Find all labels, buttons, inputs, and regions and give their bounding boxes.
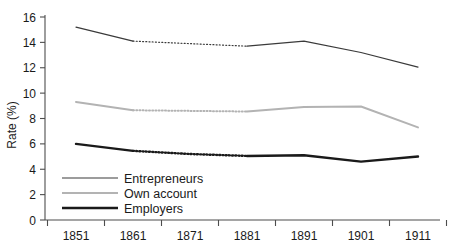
x-axis-tick-label: 1851 xyxy=(63,229,90,243)
y-axis-tick-label: 8 xyxy=(29,112,36,126)
series-line-own-account xyxy=(247,106,418,127)
y-axis-tick-label: 14 xyxy=(23,36,37,50)
x-axis-tick-label: 1881 xyxy=(234,229,261,243)
series-line-entrepreneurs xyxy=(247,41,418,67)
series-line-entrepreneurs xyxy=(76,27,133,41)
series-line-employers xyxy=(133,151,247,156)
y-axis-tick-label: 2 xyxy=(29,188,36,202)
y-axis-tick-label: 10 xyxy=(23,87,37,101)
y-axis-tick-label: 0 xyxy=(29,214,36,228)
legend-label-employers: Employers xyxy=(124,202,183,216)
line-chart: 0246810121416 18511861187118811891190119… xyxy=(0,0,462,249)
x-axis: 1851186118711881189119011911 xyxy=(45,220,447,243)
y-axis-tick-label: 16 xyxy=(23,11,37,25)
x-axis-tick-label: 1891 xyxy=(291,229,318,243)
x-axis-tick-label: 1861 xyxy=(120,229,147,243)
x-axis-tick-label: 1871 xyxy=(177,229,204,243)
y-axis-tick-label: 6 xyxy=(29,137,36,151)
legend-label-own-account: Own account xyxy=(124,187,197,201)
chart-canvas: 0246810121416 18511861187118811891190119… xyxy=(0,0,462,249)
x-axis-tick-label: 1911 xyxy=(405,229,431,243)
series-line-employers xyxy=(76,144,133,151)
legend-label-entrepreneurs: Entrepreneurs xyxy=(124,172,203,186)
chart-legend: EntrepreneursOwn accountEmployers xyxy=(62,172,203,216)
x-axis-tick-label: 1901 xyxy=(348,229,375,243)
series-line-entrepreneurs xyxy=(133,41,247,46)
series-line-own-account xyxy=(133,110,247,111)
y-axis-tick-label: 4 xyxy=(29,163,36,177)
series-line-own-account xyxy=(76,102,133,110)
y-axis-title: Rate (%) xyxy=(5,101,19,148)
y-axis-tick-label: 12 xyxy=(23,61,37,75)
y-axis: 0246810121416 xyxy=(23,11,45,228)
series-lines xyxy=(76,27,418,161)
series-line-employers xyxy=(247,155,418,161)
